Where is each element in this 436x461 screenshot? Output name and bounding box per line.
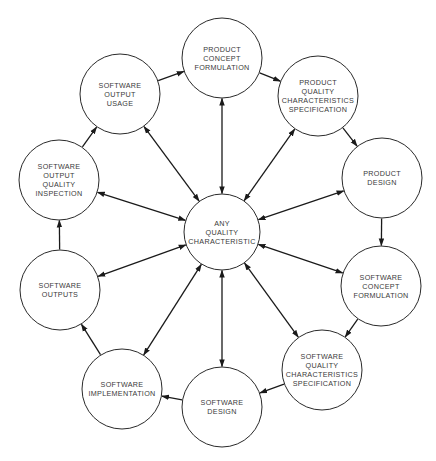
- node-label-line: QUALITY: [282, 87, 354, 96]
- node-label-line: ANY: [188, 219, 255, 228]
- node-label-software-implementation: SOFTWAREIMPLEMENTATION: [88, 380, 155, 398]
- node-label-line: FORMULATION: [194, 63, 249, 72]
- node-label-product-design: PRODUCTDESIGN: [363, 169, 401, 187]
- spoke-arrow-product-quality-characteristics-specification: [244, 129, 294, 200]
- node-label-line: FORMULATION: [353, 291, 408, 300]
- cycle-arrow-product-quality-characteristics-specification-to-product-design: [343, 128, 357, 146]
- node-label-line: QUALITY: [286, 361, 358, 370]
- cycle-arrow-software-output-usage-to-product-concept-formulation: [158, 71, 184, 80]
- node-label-line: USAGE: [99, 99, 142, 108]
- node-label-software-output-usage: SOFTWAREOUTPUTUSAGE: [99, 81, 142, 108]
- node-label-product-concept-formulation: PRODUCTCONCEPTFORMULATION: [194, 45, 249, 72]
- node-label-line: SOFTWARE: [353, 273, 408, 282]
- node-label-line: PRODUCT: [282, 78, 354, 87]
- node-label-software-design: SOFTWAREDESIGN: [201, 398, 244, 416]
- spoke-arrow-software-output-usage: [144, 127, 199, 201]
- node-label-line: SOFTWARE: [99, 81, 142, 90]
- node-label-product-quality-characteristics-specification: PRODUCTQUALITYCHARACTERISTICSSPECIFICATI…: [282, 78, 354, 114]
- node-label-software-concept-formulation: SOFTWARECONCEPTFORMULATION: [353, 273, 408, 300]
- node-label-line: SPECIFICATION: [286, 379, 358, 388]
- spoke-arrow-software-outputs: [98, 245, 186, 276]
- node-label-software-quality-characteristics-specification: SOFTWAREQUALITYCHARACTERISTICSSPECIFICAT…: [286, 352, 358, 388]
- spoke-arrow-software-quality-characteristics-specification: [245, 263, 299, 337]
- cycle-arrow-software-design-to-software-implementation: [162, 396, 182, 400]
- node-label-software-outputs: SOFTWAREOUTPUTS: [39, 281, 82, 299]
- node-label-line: SOFTWARE: [39, 281, 82, 290]
- spoke-arrow-software-implementation: [144, 264, 202, 354]
- cycle-arrow-product-concept-formulation-to-product-quality-characteristics-specification: [260, 73, 281, 81]
- node-label-line: SOFTWARE: [88, 380, 155, 389]
- node-label-line: OUTPUT: [99, 90, 142, 99]
- node-label-line: CHARACTERISTICS: [286, 370, 358, 379]
- spoke-arrow-product-design: [258, 191, 343, 220]
- node-label-any-quality-characteristic: ANYQUALITYCHARACTERISTIC: [188, 219, 255, 246]
- node-label-line: QUALITY: [188, 228, 255, 237]
- node-label-line: CONCEPT: [353, 282, 408, 291]
- node-label-line: QUALITY: [36, 180, 83, 189]
- node-label-line: CHARACTERISTIC: [188, 237, 255, 246]
- cycle-arrow-software-concept-formulation-to-software-quality-characteristics-specification: [345, 319, 357, 337]
- spoke-arrow-software-output-quality-inspection: [98, 192, 186, 220]
- node-label-line: SOFTWARE: [201, 398, 244, 407]
- quality-cycle-diagram: ANYQUALITYCHARACTERISTICPRODUCTCONCEPTFO…: [0, 0, 436, 461]
- node-label-line: SOFTWARE: [286, 352, 358, 361]
- node-label-line: SOFTWARE: [36, 162, 83, 171]
- node-label-line: CHARACTERISTICS: [282, 96, 354, 105]
- node-label-line: IMPLEMENTATION: [88, 389, 155, 398]
- node-label-line: CONCEPT: [194, 54, 249, 63]
- node-label-line: PRODUCT: [363, 169, 401, 178]
- node-label-line: PRODUCT: [194, 45, 249, 54]
- node-label-line: INSPECTION: [36, 189, 83, 198]
- cycle-arrow-software-implementation-to-software-outputs: [81, 324, 100, 354]
- node-label-line: OUTPUT: [36, 171, 83, 180]
- cycle-arrow-software-quality-characteristics-specification-to-software-design: [260, 384, 284, 393]
- node-label-line: OUTPUTS: [39, 290, 82, 299]
- node-label-line: DESIGN: [363, 178, 401, 187]
- node-label-line: SPECIFICATION: [282, 105, 354, 114]
- node-label-software-output-quality-inspection: SOFTWAREOUTPUTQUALITYINSPECTION: [36, 162, 83, 198]
- cycle-arrow-software-output-quality-inspection-to-software-output-usage: [82, 127, 96, 147]
- node-label-line: DESIGN: [201, 407, 244, 416]
- spoke-arrow-software-concept-formulation: [258, 244, 342, 273]
